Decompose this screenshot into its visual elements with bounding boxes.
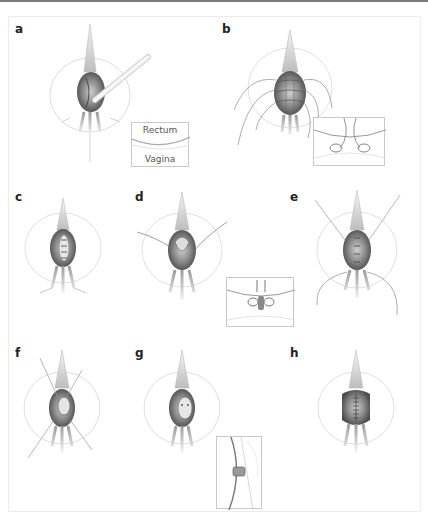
surgical-illustration-c [22,198,112,308]
inset-a-rectum-vagina: Rectum Vagina [131,122,189,167]
panel-f-illustration [22,350,112,465]
panel-h-illustration [318,350,408,465]
inset-label-rectum: Rectum [132,125,188,135]
surgical-illustration-d [135,192,230,312]
inset-b-suture-detail [313,117,385,166]
suture-detail-diagram [314,118,386,167]
layer-closure-diagram [217,437,263,510]
suture-detail-diagram [227,278,295,328]
panel-d-illustration [135,192,230,312]
inset-label-vagina: Vagina [132,154,188,164]
panel-label-f: f [15,347,20,359]
panel-label-a: a [15,23,23,35]
panel-e-illustration [305,190,420,325]
panel-c-illustration [22,198,112,308]
panel-label-e: e [290,191,298,203]
surgical-illustration-e [305,190,420,325]
surgical-illustration-f [22,350,112,465]
surgical-illustration-h [318,350,408,465]
top-rule [0,0,428,2]
inset-d-suture-detail [226,277,294,327]
panel-label-h: h [290,347,299,359]
inset-g-layer-detail [216,436,262,509]
